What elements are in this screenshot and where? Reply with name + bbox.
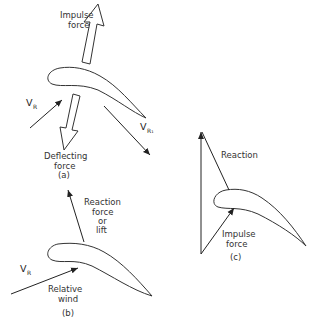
panel-b: Reaction force or lift V R Relative wind… [11, 190, 152, 318]
deflecting-label: Deflecting [44, 151, 88, 161]
wind-velocity-label: V [20, 263, 27, 274]
caption-b: (b) [62, 308, 74, 318]
impulse-label-c: Impulse [222, 229, 256, 239]
reaction-label-c: Reaction [221, 150, 258, 160]
reaction-line [202, 132, 229, 190]
caption-c: (c) [230, 252, 241, 262]
reaction-label-4: lift [96, 225, 108, 235]
outlet-velocity-label: V [140, 121, 147, 132]
wind-velocity-sub: R [27, 269, 31, 276]
deflecting-force-arrow-icon [60, 94, 80, 150]
impulse-label-c-2: force [226, 239, 247, 249]
reaction-lift-arrow [68, 190, 84, 242]
panel-c: Reaction Impulse force (c) [201, 132, 306, 262]
inlet-velocity-label: V [26, 97, 33, 108]
inlet-velocity-sub: R [33, 103, 37, 110]
reaction-label: Reaction [84, 197, 121, 207]
impulse-label: Impulse [60, 10, 94, 20]
airfoil-force-diagram: Impulse force Deflecting force V R V R₁ … [0, 0, 322, 326]
relative-wind-label-2: wind [58, 294, 78, 304]
impulse-label-2: force [68, 20, 89, 30]
outlet-velocity-sub: R₁ [147, 127, 154, 134]
panel-a: Impulse force Deflecting force V R V R₁ … [26, 4, 154, 180]
airfoil-a [48, 67, 146, 118]
relative-wind-label: Relative [48, 284, 82, 294]
caption-a: (a) [58, 170, 70, 180]
